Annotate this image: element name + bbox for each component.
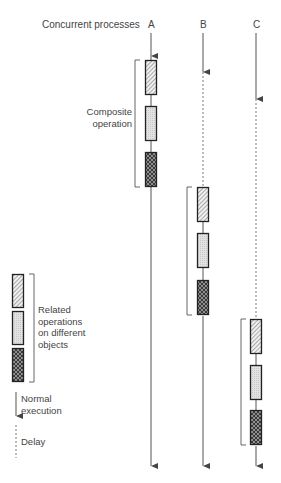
op-box-a-2 [146, 107, 157, 141]
legend-bracket [29, 274, 34, 382]
op-box-c-2 [251, 366, 262, 400]
op-box-b-1 [198, 188, 209, 222]
op-box-b-3 [198, 281, 209, 315]
legend-dark-box [13, 349, 24, 382]
process-b-timeline [187, 33, 209, 466]
op-box-a-1 [146, 61, 157, 95]
legend-hatch-box [13, 275, 24, 308]
composite-bracket-c [241, 319, 246, 445]
op-box-b-2 [198, 234, 209, 268]
composite-bracket-a [135, 60, 140, 187]
legend-light-box [13, 312, 24, 345]
op-box-a-3 [146, 153, 157, 187]
op-box-c-3 [251, 411, 262, 445]
composite-bracket-b [187, 187, 192, 315]
legend [13, 274, 35, 458]
op-box-c-1 [251, 320, 262, 354]
diagram-canvas [0, 0, 281, 483]
process-c-timeline [241, 33, 262, 466]
process-a-timeline [135, 33, 157, 466]
